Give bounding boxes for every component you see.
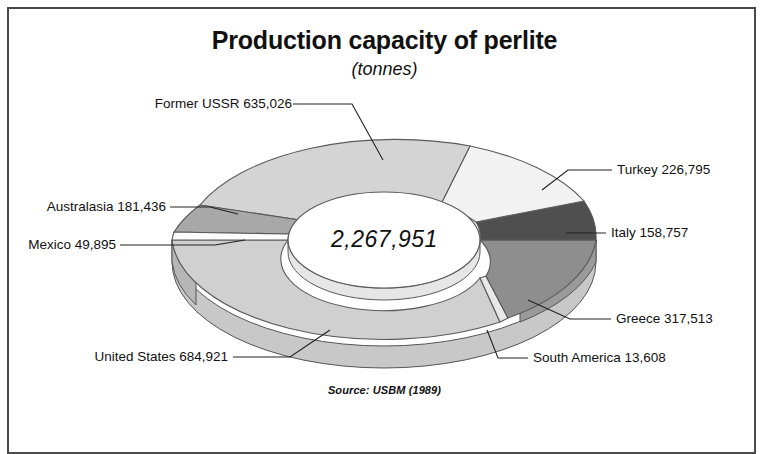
source-note: Source: USBM (1989) [0, 384, 769, 396]
label-united-states: United States 684,921 [0, 350, 228, 364]
label-turkey: Turkey 226,795 [617, 163, 710, 177]
center-total-value: 2,267,951 [0, 226, 769, 253]
label-south-america: South America 13,608 [533, 351, 666, 365]
label-australasia: Australasia 181,436 [0, 200, 166, 214]
label-former-ussr: Former USSR 635,026 [0, 97, 292, 111]
label-greece: Greece 317,513 [616, 312, 713, 326]
